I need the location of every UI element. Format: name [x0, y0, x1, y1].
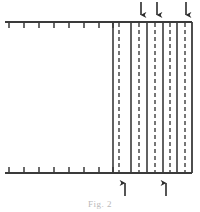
vane-array-group	[113, 22, 192, 173]
inlet-arrows-group	[141, 2, 186, 15]
diagram-canvas	[0, 0, 200, 212]
outlet-arrows-group	[125, 183, 166, 196]
walls-group	[5, 22, 192, 173]
figure-diagram: Fig. 2	[0, 0, 200, 212]
figure-caption: Fig. 2	[0, 199, 200, 209]
